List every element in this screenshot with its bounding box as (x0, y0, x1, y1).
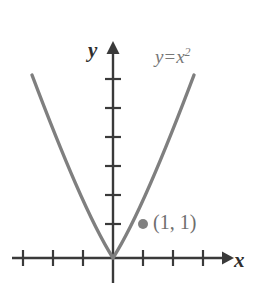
curve-equation-exponent: 2 (185, 45, 191, 59)
point-marker-1-1 (138, 219, 148, 229)
point-annotation-label: (1, 1) (153, 212, 196, 232)
x-axis-arrowhead (222, 252, 234, 265)
y-axis-label: y (88, 40, 97, 61)
parabola-figure: y x y=x2 (1, 1) (0, 0, 257, 288)
curve-equation-base: x (176, 46, 184, 67)
curve-equation-label: y=x2 (155, 46, 191, 66)
x-axis-label: x (234, 250, 245, 271)
y-axis-arrowhead (107, 41, 120, 54)
curve-equation-equals: = (163, 46, 176, 67)
plot-canvas (0, 0, 257, 288)
